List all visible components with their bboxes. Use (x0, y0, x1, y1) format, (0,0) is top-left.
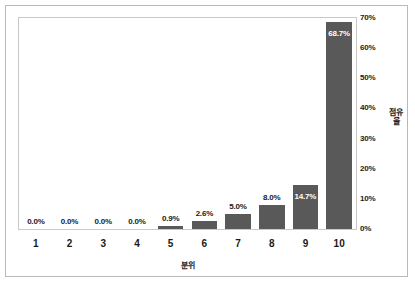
x-axis-tick-label: 2 (53, 238, 87, 249)
bars-layer: 0.0%0.0%0.0%0.0%0.9%2.6%5.0%8.0%14.7%68.… (19, 18, 356, 229)
x-axis-tick-label: 10 (322, 238, 356, 249)
bar-group: 68.7% (322, 18, 356, 229)
y-axis-tick-label: 50% (360, 73, 375, 82)
bar-group: 2.6% (188, 18, 222, 229)
bar[interactable] (192, 221, 218, 229)
x-axis-title: 분위 (0, 259, 375, 270)
y-axis-tick-label: 10% (360, 194, 375, 203)
x-axis-tick-label: 3 (86, 238, 120, 249)
y-axis-tick-label: 60% (360, 43, 375, 52)
x-axis-tick-label: 7 (221, 238, 255, 249)
bar-value-label: 8.0% (255, 193, 289, 202)
bar-value-label: 0.0% (120, 217, 154, 226)
bar-group: 0.9% (154, 18, 188, 229)
bar[interactable] (158, 226, 184, 229)
bar-group: 0.0% (19, 18, 53, 229)
bar-group: 0.0% (120, 18, 154, 229)
bar-value-label: 2.6% (188, 209, 222, 218)
y-axis-tick-label: 20% (360, 164, 375, 173)
y-axis-tick-label: 30% (360, 134, 375, 143)
bar[interactable] (326, 22, 352, 229)
y-axis-tick-label: 40% (360, 103, 375, 112)
bar-value-label: 14.7% (289, 192, 323, 201)
plot-area: 0.0%0.0%0.0%0.0%0.9%2.6%5.0%8.0%14.7%68.… (18, 17, 357, 230)
x-axis-tick-label: 1 (19, 238, 53, 249)
y-axis-title: 점유율 (389, 108, 403, 126)
bar-value-label: 0.0% (19, 217, 53, 226)
x-axis-tick-label: 5 (154, 238, 188, 249)
bar-group: 0.0% (86, 18, 120, 229)
bar-group: 14.7% (289, 18, 323, 229)
bar-group: 0.0% (53, 18, 87, 229)
x-axis-tick-label: 8 (255, 238, 289, 249)
bar-value-label: 0.0% (86, 217, 120, 226)
bar-group: 5.0% (221, 18, 255, 229)
y-axis-tick-label: 0% (360, 224, 371, 233)
bar-value-label: 5.0% (221, 202, 255, 211)
x-axis-tick-label: 4 (120, 238, 154, 249)
bar-group: 8.0% (255, 18, 289, 229)
bar-value-label: 0.0% (53, 217, 87, 226)
bar-value-label: 0.9% (154, 214, 188, 223)
chart-container: 0.0%0.0%0.0%0.0%0.9%2.6%5.0%8.0%14.7%68.… (0, 0, 415, 284)
bar[interactable] (225, 214, 251, 229)
x-axis-tick-label: 9 (289, 238, 323, 249)
y-axis-tick-label: 70% (360, 13, 375, 22)
bar-value-label: 68.7% (322, 29, 356, 38)
bar[interactable] (259, 205, 285, 229)
x-axis-tick-label: 6 (188, 238, 222, 249)
